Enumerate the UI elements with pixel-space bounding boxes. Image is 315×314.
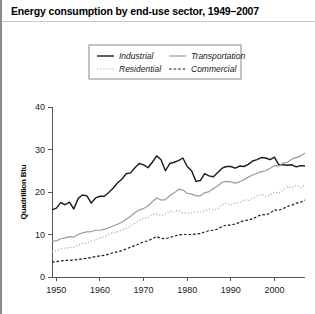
legend-label-industrial: Industrial xyxy=(119,51,155,61)
x-tick-label: 1990 xyxy=(221,285,241,295)
line-chart: IndustrialTransportationResidentialComme… xyxy=(2,0,315,314)
legend-label-residential: Residential xyxy=(119,64,162,74)
figure-container: Energy consumption by end-use sector, 19… xyxy=(0,0,315,314)
y-tick-label: 30 xyxy=(35,145,45,155)
chart-legend: IndustrialTransportationResidentialComme… xyxy=(89,45,245,79)
chart-series xyxy=(52,153,305,262)
legend-label-transportation: Transportation xyxy=(191,51,245,61)
series-line-residential xyxy=(52,184,305,252)
series-line-transportation xyxy=(52,153,305,241)
x-tick-label: 1960 xyxy=(90,285,110,295)
x-tick-label: 2000 xyxy=(264,285,284,295)
chart-axes xyxy=(48,107,305,281)
series-line-industrial xyxy=(52,156,305,210)
y-tick-label: 0 xyxy=(40,272,45,282)
x-tick-label: 1980 xyxy=(177,285,197,295)
x-tick-label: 1970 xyxy=(134,285,154,295)
y-axis-title: Quadrillion Btu xyxy=(19,164,28,219)
x-tick-label: 1950 xyxy=(46,285,66,295)
y-tick-label: 40 xyxy=(35,102,45,112)
y-tick-label: 10 xyxy=(35,230,45,240)
legend-label-commercial: Commercial xyxy=(191,64,237,74)
chart-labels: 010203040195019601970198019902000Quadril… xyxy=(19,102,284,295)
y-tick-label: 20 xyxy=(35,187,45,197)
